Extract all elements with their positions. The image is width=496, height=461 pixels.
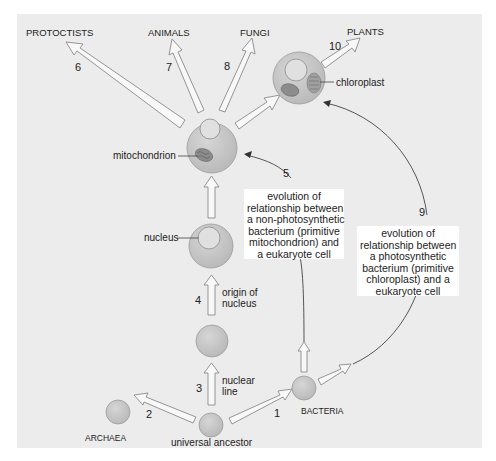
box-line: a eukaryote cell	[247, 249, 341, 261]
label-animals: ANIMALS	[148, 27, 190, 38]
step-number-7: 7	[166, 61, 172, 73]
label-nuclear-line-1: nuclear	[222, 375, 255, 386]
label-bacteria: BACTERIA	[301, 406, 344, 416]
plant-cell	[273, 52, 325, 104]
label-nuclear-line-2: line	[222, 386, 238, 397]
mitochondrion-evolution-box: evolution of relationship between a non-…	[244, 189, 344, 259]
label-fungi: FUNGI	[240, 27, 270, 38]
label-universal-ancestor: universal ancestor	[171, 437, 253, 448]
label-plants: PLANTS	[347, 26, 384, 37]
step-number-10: 10	[329, 40, 341, 52]
step-number-3: 3	[196, 382, 202, 394]
chloroplast-organelle	[307, 73, 321, 93]
label-origin-1: origin of	[222, 287, 258, 298]
box-line: evolution of	[360, 228, 456, 240]
bacteria-cell	[292, 376, 316, 400]
archaea-cell	[106, 400, 130, 424]
nucleus-organelle	[198, 227, 220, 249]
label-protoctists: PROTOCTISTS	[26, 27, 93, 38]
evolution-diagram: PROTOCTISTS ANIMALS FUNGI PLANTS ARCHAEA…	[0, 0, 496, 461]
step-number-2: 2	[146, 408, 152, 420]
step-number-9: 9	[419, 206, 425, 218]
step-number-5: 5	[283, 167, 289, 179]
step-number-4: 4	[195, 294, 201, 306]
label-chloroplast: chloroplast	[336, 77, 385, 88]
box-line: evolution of	[247, 191, 341, 203]
label-mitochondrion: mitochondrion	[113, 150, 176, 161]
nuclear-line-cell	[196, 325, 228, 357]
chloroplast-evolution-box: evolution of relationship between a phot…	[357, 226, 459, 296]
step-number-8: 8	[224, 60, 230, 72]
label-origin-2: nucleus	[222, 298, 256, 309]
label-nucleus: nucleus	[144, 232, 178, 243]
label-archaea: ARCHAEA	[85, 433, 126, 443]
universal-ancestor-cell	[199, 413, 223, 437]
nucleus-cell	[189, 224, 233, 268]
box-line: eukaryote cell	[360, 286, 456, 298]
step-number-6: 6	[75, 61, 81, 73]
step-number-1: 1	[274, 407, 280, 419]
